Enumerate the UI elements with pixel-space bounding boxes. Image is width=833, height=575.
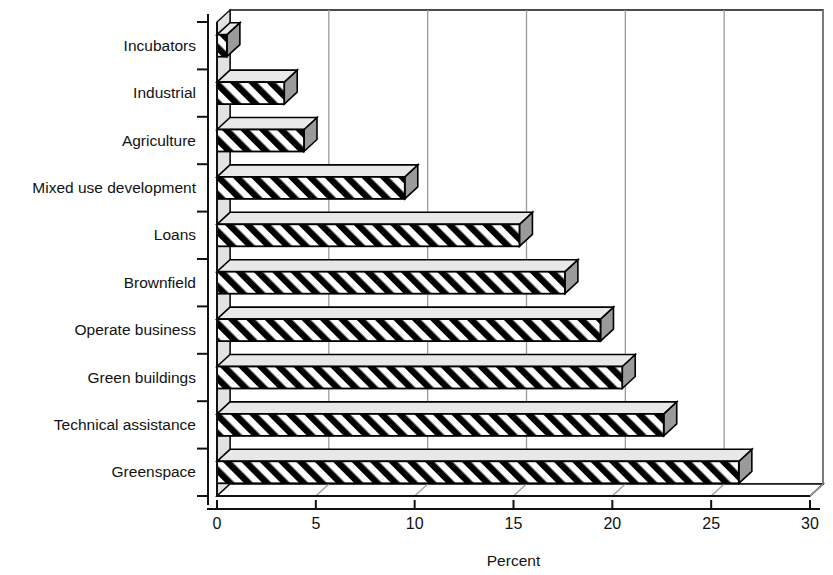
bar-1 <box>217 70 297 104</box>
x-axis-tick-1: 5 <box>296 516 336 532</box>
x-axis-title: Percent <box>414 553 614 569</box>
bar-8 <box>217 402 677 436</box>
x-axis-tick-5: 25 <box>691 516 731 532</box>
x-axis-tick-4: 20 <box>592 516 632 532</box>
bar-chart: Incubators Industrial Agriculture Mixed … <box>0 0 833 575</box>
bar-4 <box>217 212 532 246</box>
bar-3 <box>217 165 418 199</box>
x-axis-tick-6: 30 <box>790 516 830 532</box>
bar-5 <box>217 260 578 294</box>
bar-2 <box>217 118 317 152</box>
x-axis-tick-2: 10 <box>395 516 435 532</box>
bar-7 <box>217 355 635 389</box>
bar-6 <box>217 307 613 341</box>
x-axis-tick-3: 15 <box>494 516 534 532</box>
x-axis-tick-0: 0 <box>197 516 237 532</box>
bar-9 <box>217 449 752 483</box>
plot-area <box>0 0 833 575</box>
